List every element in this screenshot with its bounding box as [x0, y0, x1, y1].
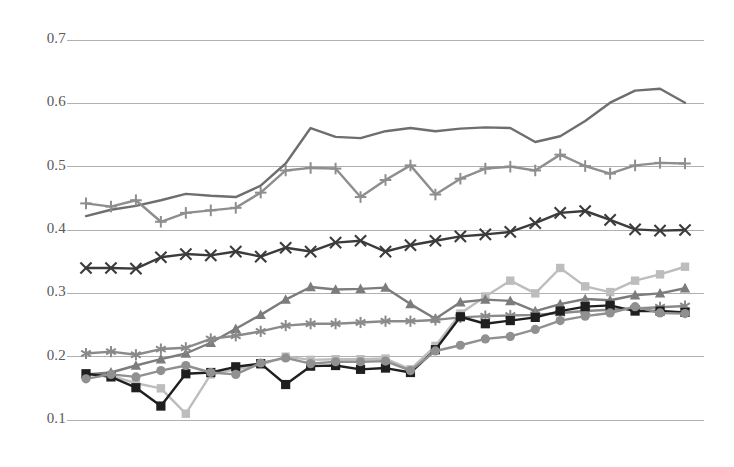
data-point-marker-circle — [81, 374, 90, 383]
y-axis-tick-label: 0.5 — [22, 157, 66, 174]
series-line — [86, 211, 685, 269]
data-point-marker-square-small — [157, 384, 165, 392]
data-point-marker-plus — [579, 160, 591, 172]
data-point-marker-square — [506, 316, 515, 325]
y-axis-tick-label: 0.3 — [22, 283, 66, 300]
data-point-marker-circle — [181, 361, 190, 370]
y-axis-tick-label: 0.6 — [22, 93, 66, 110]
line-chart-plot — [0, 0, 734, 467]
data-point-marker-square-small — [182, 409, 190, 417]
y-axis-tick-label: 0.7 — [22, 30, 66, 47]
data-point-marker-circle — [131, 372, 140, 381]
data-point-marker-plus — [604, 168, 616, 180]
data-point-marker-triangle — [680, 283, 690, 293]
data-point-marker-square-small — [556, 264, 564, 272]
data-point-marker-plus — [80, 198, 92, 210]
y-axis-tick-label: 0.1 — [22, 410, 66, 427]
data-point-marker-plus — [205, 205, 217, 217]
data-point-marker-x — [605, 214, 616, 225]
data-point-marker-circle — [331, 357, 340, 366]
data-point-marker-circle — [406, 366, 415, 375]
data-point-marker-circle — [581, 312, 590, 321]
data-point-marker-plus — [504, 161, 516, 173]
series-line — [86, 155, 685, 222]
data-point-marker-square — [181, 369, 190, 378]
data-point-marker-square-small — [631, 276, 639, 284]
data-point-marker-triangle — [405, 299, 415, 309]
series-line — [86, 89, 685, 216]
series-line — [86, 306, 685, 355]
data-point-marker-plus — [305, 162, 317, 174]
chart-container: 0.70.60.50.40.30.20.1 — [0, 0, 734, 467]
data-point-marker-triangle — [256, 309, 266, 319]
data-point-marker-square — [131, 383, 140, 392]
data-point-marker-square — [581, 302, 590, 311]
data-point-marker-circle — [281, 353, 290, 362]
data-point-marker-circle — [256, 358, 265, 367]
data-point-marker-plus — [679, 158, 691, 170]
data-point-marker-circle — [306, 359, 315, 368]
data-point-marker-square-small — [656, 270, 664, 278]
data-point-marker-plus — [455, 173, 467, 185]
data-point-marker-x — [530, 217, 541, 228]
y-axis-tick-label: 0.2 — [22, 347, 66, 364]
data-point-marker-plus — [480, 163, 492, 175]
data-point-marker-square — [531, 313, 540, 322]
data-point-marker-square — [481, 319, 490, 328]
data-point-marker-circle — [356, 357, 365, 366]
data-point-marker-circle — [206, 368, 215, 377]
data-point-marker-square-small — [681, 263, 689, 271]
data-point-marker-square-small — [581, 282, 589, 290]
data-point-marker-circle — [481, 334, 490, 343]
data-point-marker-circle — [680, 309, 689, 318]
data-point-marker-circle — [556, 316, 565, 325]
data-point-marker-square-small — [506, 276, 514, 284]
data-point-marker-circle — [606, 308, 615, 317]
data-point-marker-circle — [106, 370, 115, 379]
data-point-marker-square — [456, 312, 465, 321]
data-point-marker-circle — [655, 308, 664, 317]
data-point-marker-circle — [381, 357, 390, 366]
data-point-marker-circle — [531, 325, 540, 334]
data-point-marker-plus — [554, 149, 566, 161]
data-point-marker-square — [556, 306, 565, 315]
series-series-3-x-markers — [80, 205, 690, 274]
series-series-1-plain-line — [86, 89, 685, 216]
series-series-6-asterisk-markers — [81, 300, 690, 360]
data-point-marker-square-small — [531, 289, 539, 297]
data-point-marker-plus — [180, 207, 192, 219]
data-point-marker-circle — [156, 366, 165, 375]
data-point-marker-circle — [456, 341, 465, 350]
data-point-marker-circle — [630, 302, 639, 311]
data-point-marker-square — [281, 380, 290, 389]
data-series-group — [80, 89, 691, 418]
data-point-marker-circle — [431, 346, 440, 355]
data-point-marker-square — [156, 401, 165, 410]
data-point-marker-circle — [506, 332, 515, 341]
y-axis-tick-label: 0.4 — [22, 220, 66, 237]
data-point-marker-plus — [230, 202, 242, 214]
data-point-marker-plus — [629, 160, 641, 172]
data-point-marker-circle — [231, 370, 240, 379]
